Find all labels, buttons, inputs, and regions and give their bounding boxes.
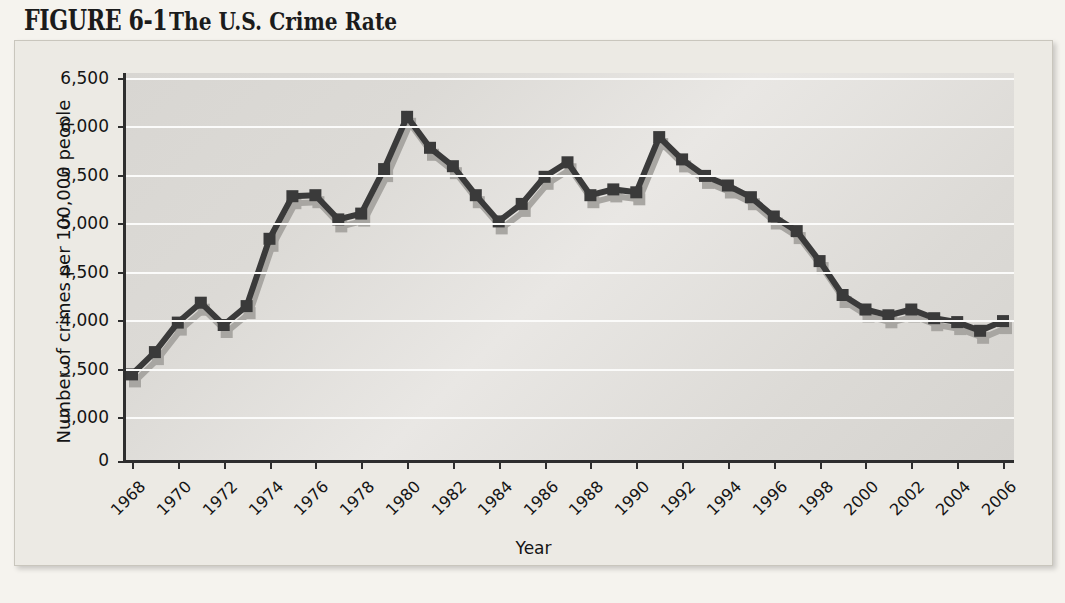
x-axis-tick-label: 1974 bbox=[244, 477, 286, 519]
figure-title-row: FIGURE 6-1 The U.S. Crime Rate bbox=[24, 2, 440, 34]
data-point-marker bbox=[149, 346, 161, 358]
gridline bbox=[126, 223, 1014, 225]
data-point-marker bbox=[974, 325, 986, 337]
x-axis-tick bbox=[911, 460, 913, 469]
figure-frame: Number of crimes per 100,000 people 03,0… bbox=[14, 40, 1053, 566]
x-axis-tick bbox=[865, 460, 867, 469]
x-axis-tick-label: 1992 bbox=[657, 477, 699, 519]
data-point-marker bbox=[768, 211, 780, 223]
x-axis-tick-label: 1984 bbox=[474, 477, 516, 519]
x-axis-tick bbox=[545, 460, 547, 469]
x-axis-tick bbox=[270, 460, 272, 469]
data-point-marker bbox=[424, 142, 436, 154]
data-point-marker bbox=[653, 131, 665, 143]
y-axis-tick bbox=[118, 126, 126, 128]
gridline bbox=[126, 78, 1014, 80]
y-axis-tick-label: 6,500 bbox=[60, 68, 109, 88]
y-axis-tick bbox=[118, 272, 126, 274]
data-point-marker bbox=[286, 190, 298, 202]
data-point-marker bbox=[172, 317, 184, 329]
data-point-marker bbox=[630, 186, 642, 198]
x-axis-tick bbox=[407, 460, 409, 469]
figure-number: FIGURE 6-1 bbox=[24, 7, 167, 34]
x-axis-tick-label: 2006 bbox=[978, 477, 1020, 519]
data-point-marker bbox=[447, 160, 459, 172]
x-axis-tick bbox=[132, 460, 134, 469]
y-axis-tick bbox=[118, 175, 126, 177]
data-point-marker bbox=[378, 163, 390, 175]
x-axis-tick-label: 1976 bbox=[290, 477, 332, 519]
figure-caption: The U.S. Crime Rate bbox=[169, 10, 397, 34]
x-axis-tick bbox=[224, 460, 226, 469]
x-axis-tick-label: 1996 bbox=[749, 477, 791, 519]
x-axis-tick-label: 1970 bbox=[153, 477, 195, 519]
series-line bbox=[126, 111, 1009, 381]
x-axis-tick-label: 1982 bbox=[428, 477, 470, 519]
x-axis-tick-label: 2000 bbox=[840, 477, 882, 519]
plot-region bbox=[123, 73, 1014, 463]
x-axis-tick-label: 1968 bbox=[107, 477, 149, 519]
x-axis-tick bbox=[820, 460, 822, 469]
x-axis-tick bbox=[499, 460, 501, 469]
data-point-marker bbox=[195, 297, 207, 309]
y-axis-tick-label: 4,500 bbox=[60, 262, 109, 282]
x-axis-tick-label: 1994 bbox=[703, 477, 745, 519]
x-axis-tick bbox=[1003, 460, 1005, 469]
gridline bbox=[126, 126, 1014, 128]
gridline bbox=[126, 417, 1014, 419]
data-point-marker bbox=[355, 208, 367, 220]
x-axis-tick bbox=[178, 460, 180, 469]
x-axis-tick-label: 1972 bbox=[199, 477, 241, 519]
x-axis-tick-label: 2004 bbox=[932, 477, 974, 519]
data-point-marker bbox=[584, 189, 596, 201]
y-axis-tick bbox=[118, 223, 126, 225]
chart-area: Number of crimes per 100,000 people 03,0… bbox=[15, 41, 1052, 565]
data-point-marker bbox=[814, 255, 826, 267]
x-axis-tick bbox=[774, 460, 776, 469]
data-point-marker bbox=[745, 191, 757, 203]
y-axis-tick-label: 3,500 bbox=[60, 359, 109, 379]
data-point-marker bbox=[607, 183, 619, 195]
data-point-marker bbox=[676, 153, 688, 165]
y-axis-tick-label: 4,000 bbox=[60, 310, 109, 330]
x-axis-tick bbox=[453, 460, 455, 469]
x-axis-tick-label: 1986 bbox=[520, 477, 562, 519]
x-axis-tick bbox=[590, 460, 592, 469]
y-axis-tick-zero bbox=[118, 461, 126, 463]
data-point-marker bbox=[722, 180, 734, 192]
x-axis-tick bbox=[682, 460, 684, 469]
gridline bbox=[126, 175, 1014, 177]
y-axis-tick-label: 6,000 bbox=[60, 116, 109, 136]
data-point-marker bbox=[928, 312, 940, 324]
y-axis-tick-label: 5,500 bbox=[60, 165, 109, 185]
x-axis-tick bbox=[957, 460, 959, 469]
gridline bbox=[126, 272, 1014, 274]
y-axis-tick-label: 3,000 bbox=[60, 407, 109, 427]
x-axis-tick-label: 1990 bbox=[611, 477, 653, 519]
y-axis-tick bbox=[118, 417, 126, 419]
data-point-marker bbox=[401, 111, 413, 123]
x-axis-tick-label: 2002 bbox=[886, 477, 928, 519]
data-point-marker bbox=[791, 225, 803, 237]
y-axis-tick-labels: 03,0003,5004,0004,5005,0005,5006,0006,50… bbox=[15, 73, 119, 473]
y-axis-tick-label: 5,000 bbox=[60, 213, 109, 233]
x-axis-title: Year bbox=[15, 538, 1052, 558]
data-point-marker bbox=[309, 189, 321, 201]
data-point-marker bbox=[470, 189, 482, 201]
figure-page: FIGURE 6-1 The U.S. Crime Rate Number of… bbox=[0, 0, 1065, 603]
gridline bbox=[126, 320, 1014, 322]
x-axis-tick bbox=[361, 460, 363, 469]
data-point-marker bbox=[905, 304, 917, 316]
y-axis-tick-label: 0 bbox=[98, 450, 109, 470]
data-point-marker bbox=[264, 233, 276, 245]
gridline bbox=[126, 369, 1014, 371]
data-point-marker bbox=[860, 304, 872, 316]
x-axis-tick-label: 1998 bbox=[795, 477, 837, 519]
x-axis-tick bbox=[315, 460, 317, 469]
data-point-marker bbox=[837, 289, 849, 301]
x-axis-tick bbox=[728, 460, 730, 469]
y-axis-tick bbox=[118, 369, 126, 371]
x-axis-tick-label: 1978 bbox=[336, 477, 378, 519]
x-axis-tick bbox=[636, 460, 638, 469]
x-axis-tick-label: 1988 bbox=[565, 477, 607, 519]
